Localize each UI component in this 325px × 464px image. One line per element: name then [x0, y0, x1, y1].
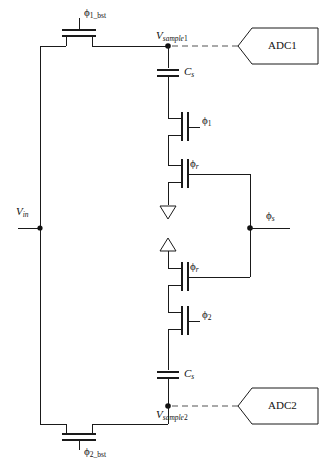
label-cs-bottom: Cs: [184, 368, 194, 380]
signal-direction-up-triangle: [160, 238, 176, 251]
label-phi2: ϕ2: [202, 309, 212, 321]
label-vin: Vin: [16, 206, 29, 218]
signal-direction-down-triangle: [160, 206, 176, 219]
label-phi1: ϕ1: [202, 115, 212, 127]
label-cs-top: Cs: [184, 66, 194, 78]
label-adc2: ADC2: [268, 399, 297, 411]
label-phi1-bst: ϕ1_bst: [84, 7, 106, 19]
label-phis: ϕs: [266, 210, 275, 222]
label-phi2-bst: ϕ2_bst: [84, 446, 106, 458]
label-vsample2: Vsample2: [156, 409, 188, 421]
vin-node-dot: [37, 225, 42, 230]
label-adc1: ADC1: [268, 39, 297, 51]
schematic-canvas: [0, 0, 325, 464]
circuit-schematic: ϕ1_bst Vsample1 ADC1 Cs ϕ1 ϕr Vin ϕs ϕr …: [0, 0, 325, 464]
label-phir-top: ϕr: [190, 158, 199, 170]
label-vsample1: Vsample1: [156, 30, 188, 42]
label-phir-bottom: ϕr: [190, 261, 199, 273]
